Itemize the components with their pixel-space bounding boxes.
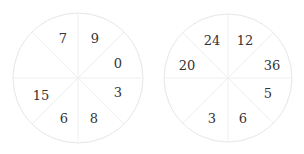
sector-number-top-right: 9	[91, 31, 99, 46]
sector-number-top-left: 24	[204, 33, 221, 48]
sector-number-right-bottom: 5	[264, 86, 272, 101]
sector-number-left-top: 20	[179, 58, 196, 73]
sector-number-right-bottom: 3	[114, 85, 122, 100]
sector-number-right-top: 36	[264, 58, 281, 73]
sector-number-bottom-right: 6	[239, 111, 247, 126]
sector-number-top-left: 7	[59, 31, 67, 46]
right-number-circle: 12365632024	[164, 14, 292, 142]
left-number-circle: 90386157	[13, 13, 143, 143]
sector-number-top-right: 12	[237, 33, 254, 48]
sector-number-bottom-left: 6	[60, 111, 68, 126]
sector-number-bottom-left: 3	[208, 111, 216, 126]
sector-number-left-bottom: 15	[33, 88, 50, 103]
sector-number-right-top: 0	[114, 56, 122, 71]
number-circles-puzzle: 90386157 12365632024	[0, 0, 304, 154]
sector-number-bottom-right: 8	[90, 111, 98, 126]
